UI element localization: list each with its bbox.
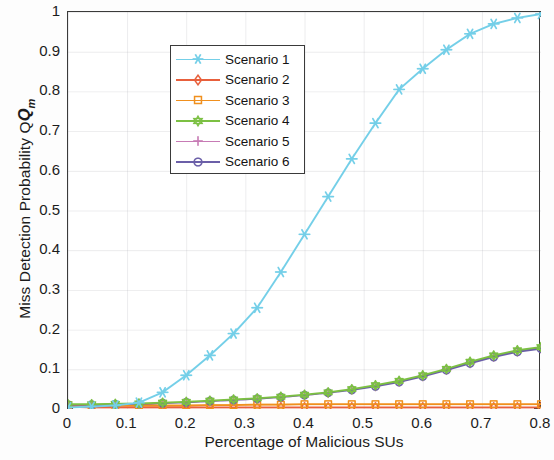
y-tick-label: 0.8 <box>20 81 60 98</box>
legend-label: Scenario 5 <box>225 134 290 149</box>
legend-label: Scenario 4 <box>225 113 290 128</box>
legend-label: Scenario 2 <box>225 72 290 87</box>
x-tick-label: 0.4 <box>279 414 329 431</box>
legend-item-scenario-3[interactable]: Scenario 3 <box>171 90 304 111</box>
legend-sample-square-icon <box>176 90 220 110</box>
y-tick-label: 0.5 <box>20 201 60 218</box>
legend-marker-square-icon <box>190 90 206 110</box>
y-tick-label: 1 <box>20 2 60 19</box>
y-axis-title-subscript: m <box>25 98 37 108</box>
y-tick-label: 0.3 <box>20 280 60 297</box>
legend-marker-asterisk-icon <box>190 49 206 69</box>
y-tick-label: 0.1 <box>20 359 60 376</box>
x-tick-label: 0.5 <box>338 414 388 431</box>
x-tick-label: 0.8 <box>515 414 554 431</box>
legend-label: Scenario 3 <box>225 93 290 108</box>
legend-label: Scenario 1 <box>225 52 290 67</box>
figure-canvas: Miss Detection Probability QQm Percentag… <box>0 0 554 460</box>
legend-marker-hexagram-icon <box>190 111 206 131</box>
y-tick-label: 0.2 <box>20 320 60 337</box>
legend-sample-asterisk-icon <box>176 49 220 69</box>
legend-box: Scenario 1Scenario 2Scenario 3Scenario 4… <box>170 45 305 174</box>
x-tick-label: 0.6 <box>397 414 447 431</box>
legend-sample-diamond-icon <box>176 70 220 90</box>
x-tick-label: 0 <box>42 414 92 431</box>
legend-item-scenario-2[interactable]: Scenario 2 <box>171 70 304 91</box>
legend-sample-hexagram-icon <box>176 111 220 131</box>
legend-item-scenario-4[interactable]: Scenario 4 <box>171 111 304 132</box>
legend-label: Scenario 6 <box>225 154 290 169</box>
x-tick-label: 0.3 <box>219 414 269 431</box>
y-tick-label: 0.4 <box>20 240 60 257</box>
x-tick-label: 0.1 <box>101 414 151 431</box>
x-tick-label: 0.2 <box>160 414 210 431</box>
x-tick-label: 0.7 <box>456 414 506 431</box>
legend-item-scenario-5[interactable]: Scenario 5 <box>171 131 304 152</box>
x-axis-title: Percentage of Malicious SUs <box>67 433 541 451</box>
plot-area: Scenario 1Scenario 2Scenario 3Scenario 4… <box>67 11 540 408</box>
legend-item-scenario-1[interactable]: Scenario 1 <box>171 49 304 70</box>
legend-item-scenario-6[interactable]: Scenario 6 <box>171 152 304 173</box>
y-tick-label: 0.7 <box>20 121 60 138</box>
y-tick-label: 0.9 <box>20 42 60 59</box>
y-axis-title-symbol: Qm <box>15 98 33 121</box>
y-tick-label: 0.6 <box>20 161 60 178</box>
legend-marker-circle-icon <box>190 152 206 172</box>
legend-sample-plus-icon <box>176 131 220 151</box>
legend-sample-circle-icon <box>176 152 220 172</box>
legend-marker-plus-icon <box>190 131 206 151</box>
legend-marker-diamond-icon <box>190 70 206 90</box>
